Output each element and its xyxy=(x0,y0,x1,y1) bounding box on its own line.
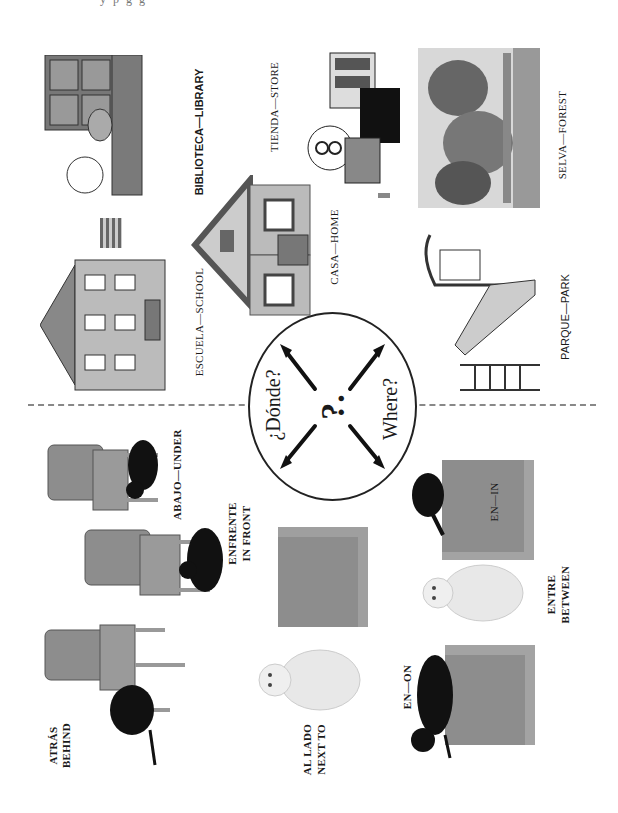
forest-illustration xyxy=(418,48,540,208)
question-english: Where? xyxy=(379,369,401,449)
place-label-store: TIENDA—STORE xyxy=(268,52,282,162)
preposition-label-under: ABAJO—UNDER xyxy=(171,430,185,520)
preposition-en: BEHIND xyxy=(60,721,73,771)
preposition-es: ENFRENTE xyxy=(226,494,239,574)
preposition-label-behind: ATRÁS BEHIND xyxy=(42,715,82,775)
place-label-home: CASA—HOME xyxy=(328,197,342,297)
cat-in-box xyxy=(408,470,453,540)
preposition-label-on: EN—ON xyxy=(401,657,415,717)
preposition-en: NEXT TO xyxy=(315,720,328,780)
preposition-es: ENTRE xyxy=(545,565,558,625)
question-spanish: ¿Dónde? xyxy=(262,360,284,450)
preposition-label-in: EN—IN xyxy=(488,472,502,532)
playground-illustration xyxy=(415,225,550,395)
cat-between-boxes xyxy=(418,555,528,630)
place-label-forest: SELVA—FOREST xyxy=(556,80,570,190)
preposition-label-between: ENTRE BETWEEN xyxy=(535,560,575,630)
preposition-en: IN FRONT xyxy=(240,494,253,574)
school-illustration xyxy=(40,255,180,405)
preposition-label-next-to: AL LADO NEXT TO xyxy=(290,715,330,785)
preposition-label-in-front: ENFRENTE IN FRONT xyxy=(220,490,260,580)
cat-in-front-of-chair xyxy=(80,520,225,620)
cat-next-to-box xyxy=(255,640,365,720)
preposition-en: BETWEEN xyxy=(559,565,572,625)
preposition-es: ATRÁS xyxy=(47,721,60,771)
question-symbol: ?. xyxy=(315,370,351,445)
flag-icon xyxy=(100,218,122,248)
where-circle: ?. ¿Dónde? Where? xyxy=(248,312,417,501)
house-illustration xyxy=(190,175,315,320)
box-next-to-cat xyxy=(278,527,368,627)
preposition-es: AL LADO xyxy=(301,720,314,780)
place-label-park: PARQUE—PARK xyxy=(559,267,573,367)
library-illustration xyxy=(40,55,150,210)
box-on xyxy=(445,645,535,745)
cat-under-chair xyxy=(38,425,158,535)
cut-off-header-text: y p g g xyxy=(100,0,147,7)
